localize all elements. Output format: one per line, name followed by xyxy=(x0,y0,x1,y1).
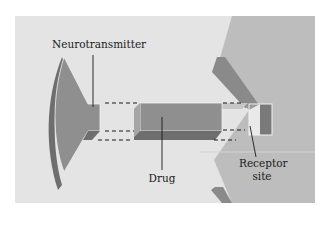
receptor-label-line2: site xyxy=(239,170,285,182)
receptor-label-line1: Receptor xyxy=(239,157,285,169)
drug-label: Drug xyxy=(146,172,178,184)
drug-bottom-face xyxy=(134,131,222,140)
neurotransmitter-label: Neurotransmitter xyxy=(52,38,136,50)
receptor-pocket-back xyxy=(260,104,272,135)
drug-receptor-diagram xyxy=(0,0,329,229)
drug-front-face xyxy=(140,103,222,131)
